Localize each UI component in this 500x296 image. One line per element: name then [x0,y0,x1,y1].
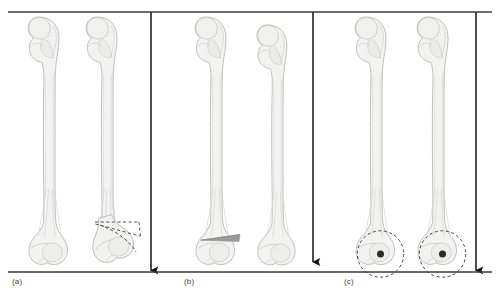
deformity-wedge-closure [139,222,141,237]
panel-label-a: (a) [12,277,22,286]
femur-corrected [257,25,295,265]
pivot-point-right [439,251,446,258]
panel-label-c: (c) [344,277,354,286]
femur-pivot-left [355,17,394,265]
figure-canvas [0,0,500,296]
panel-label-b: (b) [184,277,194,286]
femur-pivot-right [417,17,456,265]
femur-normal [28,17,67,265]
femur-deformed [85,17,137,266]
femur-with-wedge [195,17,234,265]
panel-c [355,12,476,277]
panel-a [28,12,151,270]
femur-comparison-figure: (a) (b) (c) [0,0,500,296]
panel-b [195,12,313,265]
pivot-point-left [377,251,384,258]
